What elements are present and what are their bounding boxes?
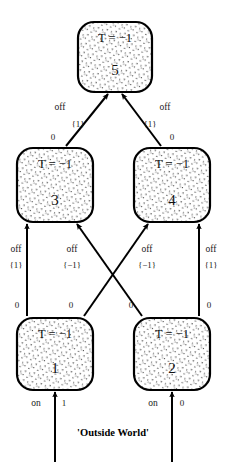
- edge-3-to-5: off{1}0: [51, 94, 108, 146]
- edge-source-label: 0: [207, 300, 212, 310]
- edge-event-label: off: [55, 102, 67, 112]
- edge-output-label: {1}: [71, 119, 84, 129]
- edge-output-label: {1}: [9, 260, 22, 270]
- input-event-label: on: [148, 398, 158, 408]
- state-node-4[interactable]: T = −14: [134, 148, 210, 222]
- edge-output-label: {−1}: [63, 260, 81, 270]
- node-id-label: 4: [168, 192, 176, 208]
- edge-event-label: off: [142, 244, 154, 254]
- node-condition-label: T = −1: [155, 327, 189, 341]
- edge-output-label: {1}: [143, 119, 156, 129]
- state-node-2[interactable]: T = −12: [134, 318, 210, 390]
- external-input-to-2: on0: [148, 392, 185, 462]
- edge-output-label: {−1}: [138, 260, 156, 270]
- node-condition-label: T = −1: [38, 157, 72, 171]
- edge-event-label: off: [67, 244, 79, 254]
- edge-source-label: 0: [69, 300, 74, 310]
- edge-4-to-5: off{1}0: [122, 94, 175, 146]
- input-value-label: 1: [62, 398, 67, 408]
- node-condition-label: T = −1: [155, 157, 189, 171]
- edge-1-to-4: off{−1}0: [69, 224, 156, 316]
- edge-2-to-4: off{1}0: [199, 224, 218, 316]
- outside-world-caption: 'Outside World': [77, 427, 149, 438]
- state-transition-diagram: off{1}0off{1}0off{1}0off{−1}0off{−1}0off…: [0, 0, 227, 465]
- edge-source-label: 0: [15, 300, 20, 310]
- edge-source-label: 0: [51, 132, 56, 142]
- node-id-label: 3: [51, 192, 59, 208]
- edge-source-label: 0: [170, 132, 175, 142]
- external-input-to-1: on1: [31, 392, 66, 462]
- edge-event-label: off: [206, 244, 218, 254]
- state-node-5[interactable]: T = −15: [78, 22, 152, 92]
- state-node-1[interactable]: T = −11: [17, 318, 93, 390]
- node-id-label: 1: [51, 360, 59, 376]
- edge-event-label: off: [160, 102, 172, 112]
- node-id-label: 5: [111, 62, 119, 78]
- input-value-label: 0: [180, 398, 185, 408]
- edge-2-to-3: off{−1}0: [63, 224, 142, 316]
- nodes-layer: T = −11T = −12T = −13T = −14T = −15: [17, 22, 210, 390]
- node-id-label: 2: [168, 360, 176, 376]
- node-condition-label: T = −1: [98, 31, 132, 45]
- edge-1-to-3: off{1}0: [9, 224, 27, 316]
- state-node-3[interactable]: T = −13: [17, 148, 93, 222]
- edge-source-label: 0: [129, 300, 134, 310]
- edge-event-label: off: [11, 244, 23, 254]
- state-diagram-root: off{1}0off{1}0off{1}0off{−1}0off{−1}0off…: [0, 0, 227, 465]
- node-condition-label: T = −1: [38, 327, 72, 341]
- edge-output-label: {1}: [204, 260, 217, 270]
- input-event-label: on: [31, 398, 41, 408]
